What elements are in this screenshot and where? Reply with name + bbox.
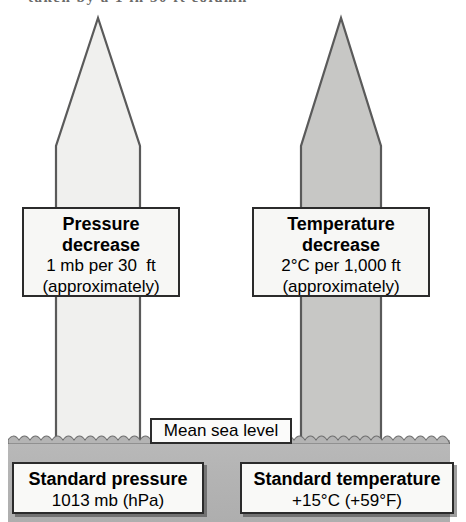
pressure-decrease-title-line1: Pressure bbox=[24, 214, 178, 235]
pressure-decrease-note: (approximately) bbox=[24, 277, 178, 298]
temperature-decrease-box: Temperature decrease 2°C per 1,000 ft (a… bbox=[252, 207, 430, 297]
top-caption-fragment: taken by a 1 in 30 ft column bbox=[28, 0, 298, 5]
pressure-decrease-box: Pressure decrease 1 mb per 30 ft (approx… bbox=[22, 207, 180, 297]
pressure-decrease-title-line2: decrease bbox=[24, 235, 178, 256]
standard-pressure-value: 1013 mb (hPa) bbox=[14, 490, 202, 511]
temperature-decrease-title-line2: decrease bbox=[254, 235, 428, 256]
temperature-decrease-title-line1: Temperature bbox=[254, 214, 428, 235]
temperature-decrease-value: 2°C per 1,000 ft bbox=[254, 256, 428, 277]
standard-pressure-box: Standard pressure 1013 mb (hPa) bbox=[12, 462, 204, 514]
standard-pressure-title: Standard pressure bbox=[14, 468, 202, 490]
mean-sea-level-label: Mean sea level bbox=[150, 418, 292, 444]
pressure-decrease-value: 1 mb per 30 ft bbox=[24, 256, 178, 277]
temperature-decrease-note: (approximately) bbox=[254, 277, 428, 298]
diagram-canvas: taken by a 1 in 30 ft column Pressure de… bbox=[0, 0, 466, 522]
standard-temperature-title: Standard temperature bbox=[242, 468, 452, 490]
standard-temperature-box: Standard temperature +15°C (+59°F) bbox=[240, 462, 454, 514]
mean-sea-level-text: Mean sea level bbox=[164, 421, 278, 440]
standard-temperature-value: +15°C (+59°F) bbox=[242, 490, 452, 511]
